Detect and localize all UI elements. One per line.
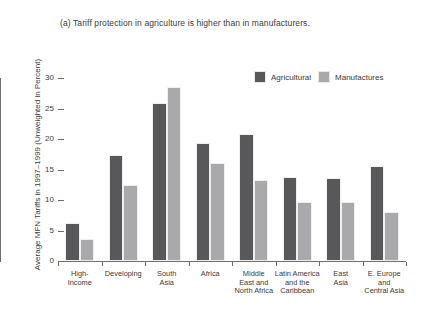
legend-swatch-icon <box>254 71 266 83</box>
y-axis-line <box>0 78 1 262</box>
x-axis-tick <box>102 262 103 266</box>
bar-manufactures-0 <box>80 239 95 261</box>
bar-manufactures-6 <box>341 202 356 261</box>
bar-manufactures-3 <box>210 163 225 261</box>
x-axis-tick <box>232 262 233 266</box>
bar-agricultural-6 <box>326 178 341 261</box>
bar-agricultural-4 <box>239 134 254 261</box>
x-axis-category-label: E. EuropeandCentral Asia <box>353 270 417 296</box>
y-axis-tick-label: 5 <box>32 226 54 235</box>
x-axis-tick <box>145 262 146 266</box>
y-axis-tick-label: 0 <box>32 256 54 265</box>
y-axis-tick-label: 20 <box>32 134 54 143</box>
plot-area <box>58 78 406 261</box>
x-axis-tick <box>406 262 407 266</box>
bar-agricultural-0 <box>65 223 80 261</box>
bar-manufactures-2 <box>167 87 182 261</box>
x-axis-tick <box>319 262 320 266</box>
legend-swatch-icon <box>318 71 330 83</box>
y-axis-tick-label: 30 <box>32 73 54 82</box>
legend-entry-agricultural: Agricultural <box>254 71 311 83</box>
bar-agricultural-3 <box>196 143 211 261</box>
chart-title: (a) Tariff protection in agriculture is … <box>60 18 410 28</box>
bar-manufactures-5 <box>297 202 312 261</box>
bar-agricultural-5 <box>283 177 298 261</box>
x-axis-tick <box>363 262 364 266</box>
bar-agricultural-7 <box>370 166 385 261</box>
bar-manufactures-1 <box>123 185 138 261</box>
x-axis-tick <box>58 262 59 266</box>
bar-agricultural-1 <box>109 155 124 261</box>
bar-agricultural-2 <box>152 103 167 261</box>
legend-entry-manufactures: Manufactures <box>318 71 383 83</box>
y-axis-tick-label: 10 <box>32 195 54 204</box>
bar-manufactures-7 <box>384 212 399 261</box>
legend-label: Manufactures <box>335 73 383 82</box>
y-axis-tick-label: 25 <box>32 104 54 113</box>
legend-label: Agricultural <box>271 73 311 82</box>
tariff-bar-chart-figure: (a) Tariff protection in agriculture is … <box>0 0 430 311</box>
x-axis-tick <box>276 262 277 266</box>
bar-manufactures-4 <box>254 180 269 261</box>
x-axis-tick <box>189 262 190 266</box>
y-axis-tick-label: 15 <box>32 165 54 174</box>
chart-legend: AgriculturalManufactures <box>254 71 383 83</box>
